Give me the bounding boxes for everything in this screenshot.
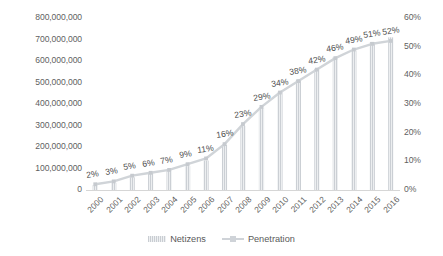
x-axis-label-2013: 2013 [324,195,346,217]
bar-2011 [296,80,301,190]
bar-2007 [222,145,227,190]
y-axis-left-tick: 500,000,000 [35,78,82,87]
bar-2005 [185,166,190,190]
y-axis-left-tick: 400,000,000 [35,99,82,108]
y-axis-left-tick: 300,000,000 [35,121,82,130]
data-label-2010: 34% [270,77,288,89]
x-axis: 2000200120022003200420052006200720082009… [86,191,400,229]
x-axis-label-2000: 2000 [84,195,106,217]
x-axis-label-2016: 2016 [379,195,401,217]
penetration-marker-2005 [186,162,190,166]
x-axis-label-2010: 2010 [268,195,290,217]
x-axis-label-2002: 2002 [121,195,143,217]
bar-2015 [370,42,375,190]
bar-2014 [351,50,356,190]
bar-2003 [148,173,153,190]
bar-2012 [314,69,319,190]
chart-legend: Netizens Penetration [0,234,443,244]
y-axis-left-tick: 100,000,000 [35,164,82,173]
legend-label-penetration: Penetration [248,234,295,244]
bar-2006 [203,161,208,190]
y-axis-left-tick: 200,000,000 [35,142,82,151]
data-label-2006: 11% [197,143,215,154]
x-axis-label-2015: 2015 [361,195,383,217]
y-axis-right-tick: 20% [404,128,421,137]
x-axis-label-2003: 2003 [139,195,161,217]
data-label-2004: 7% [160,155,174,166]
y-axis-left: 0100,000,000200,000,000300,000,000400,00… [0,0,86,200]
y-axis-left-tick: 800,000,000 [35,13,82,22]
y-axis-right: 0%10%20%30%40%50%60% [400,0,443,200]
bar-2004 [167,170,172,190]
bar-2010 [277,92,282,190]
penetration-marker-2003 [149,171,153,175]
y-axis-right-tick: 30% [404,99,421,108]
penetration-marker-2012 [315,68,319,72]
x-axis-label-2001: 2001 [102,195,124,217]
x-axis-label-2005: 2005 [176,195,198,217]
penetration-marker-2009 [260,105,264,109]
y-axis-right-tick: 60% [404,13,421,22]
x-axis-label-2006: 2006 [195,195,217,217]
penetration-marker-2006 [204,157,208,161]
y-axis-left-tick: 700,000,000 [35,35,82,44]
penetration-marker-2011 [297,79,301,83]
penetration-marker-2007 [223,142,227,146]
y-axis-right-tick: 0% [404,185,416,194]
bar-2009 [259,107,264,190]
x-axis-label-2012: 2012 [305,195,327,217]
penetration-marker-2013 [333,56,337,60]
bar-2013 [333,57,338,190]
x-axis-label-2009: 2009 [250,195,272,217]
y-axis-right-tick: 50% [404,42,421,51]
x-axis-label-2008: 2008 [231,195,253,217]
legend-item-netizens[interactable]: Netizens [148,234,206,244]
line-swatch-icon [222,235,244,243]
penetration-marker-2016 [389,39,393,43]
data-label-2014: 49% [344,34,362,46]
legend-label-netizens: Netizens [170,234,206,244]
penetration-marker-2010 [278,91,282,95]
bar-2008 [240,126,245,190]
penetration-marker-2008 [241,122,245,126]
data-label-2002: 5% [123,161,137,172]
combo-chart: 0100,000,000200,000,000300,000,000400,00… [0,0,443,256]
penetration-marker-2014 [352,48,356,52]
penetration-marker-2001 [112,180,116,184]
penetration-marker-2000 [93,182,97,186]
y-axis-left-tick: 0 [77,185,82,194]
penetration-marker-2002 [130,174,134,178]
y-axis-right-tick: 10% [404,156,421,165]
bar-2001 [111,183,116,190]
x-axis-label-2007: 2007 [213,195,235,217]
x-axis-label-2004: 2004 [158,195,180,217]
y-axis-left-tick: 600,000,000 [35,56,82,65]
legend-item-penetration[interactable]: Penetration [222,234,295,244]
data-label-2003: 6% [141,158,155,169]
bar-2016 [388,37,393,190]
bar-2002 [130,177,135,190]
bar-swatch-icon [148,236,166,242]
penetration-marker-2015 [370,42,374,46]
x-axis-label-2014: 2014 [342,195,364,217]
penetration-marker-2004 [167,168,171,172]
y-axis-right-tick: 40% [404,70,421,79]
x-axis-label-2011: 2011 [287,195,309,217]
